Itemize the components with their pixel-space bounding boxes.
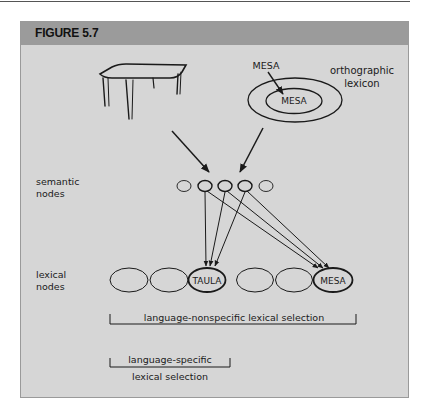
specific-selection-label-2: lexical selection — [132, 371, 208, 382]
mesa-lexicon-label: MESA — [281, 96, 307, 106]
semantic-nodes-label-2: nodes — [36, 188, 65, 199]
lexical-node — [276, 268, 313, 292]
orthographic-label: orthographic — [330, 65, 394, 76]
lexical-node — [110, 268, 148, 292]
table-picture-icon — [100, 64, 186, 119]
mesa-node-label: MESA — [320, 276, 346, 286]
semantic-nodes-label: semantic — [36, 176, 79, 187]
semantic-node — [198, 181, 212, 192]
lexical-nodes-label: lexical — [36, 269, 66, 280]
semantic-lexical-connections — [205, 191, 329, 268]
mesa-input-label: MESA — [253, 60, 280, 71]
lexical-node — [237, 268, 274, 292]
nonspecific-selection-label: language-nonspecific lexical selection — [144, 312, 324, 323]
semantic-nodes — [177, 181, 273, 192]
semantic-node — [259, 181, 273, 192]
specific-selection-label: language-specific — [128, 354, 212, 365]
orthographic-lexicon: MESA MESA orthographic lexicon — [248, 60, 394, 122]
taula-label: TAULA — [192, 276, 223, 286]
diagram-canvas: MESA MESA orthographic lexicon semantic … — [0, 0, 427, 418]
semantic-node — [218, 181, 232, 192]
semantic-node — [177, 181, 191, 192]
lexical-node — [150, 268, 188, 292]
semantic-node — [238, 181, 252, 192]
lexical-nodes — [110, 268, 353, 292]
lexicon-to-semantic-arrow — [240, 128, 263, 172]
lexical-nodes-label-2: nodes — [36, 281, 65, 292]
mesa-input-arrow — [268, 72, 283, 94]
picture-to-semantic-arrow — [172, 131, 209, 172]
lexicon-label: lexicon — [344, 78, 379, 89]
